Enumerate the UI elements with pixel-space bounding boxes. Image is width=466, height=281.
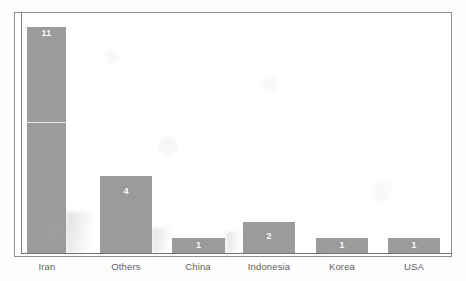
y-axis-line [21, 12, 22, 254]
x-tick-label-usa: USA [383, 261, 445, 272]
scan-artifact-shadow [152, 228, 176, 254]
bar-value-label: 1 [172, 240, 225, 250]
x-tick-label-china: China [167, 261, 229, 272]
x-tick-label-others: Others [95, 261, 157, 272]
bar-value-label: 1 [388, 240, 440, 250]
gridline [22, 122, 142, 123]
bar-value-label: 11 [27, 28, 66, 38]
bar-iran[interactable] [27, 27, 66, 253]
bar-value-label: 2 [243, 231, 295, 241]
x-tick-label-korea: Korea [311, 261, 373, 272]
scan-artifact-shadow [226, 232, 246, 254]
scan-artifact-shadow [66, 212, 102, 254]
x-tick-label-indonesia: Indonesia [237, 261, 301, 272]
bar-chart: 11 4 1 2 1 1 Iran Others China Indonesia… [0, 0, 466, 281]
bar-value-label: 4 [100, 186, 152, 196]
x-tick-label-iran: Iran [16, 261, 78, 272]
bar-value-label: 1 [316, 240, 368, 250]
